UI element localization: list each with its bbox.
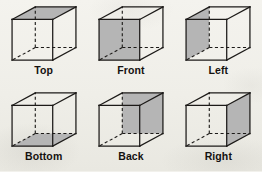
cube-view-front: Front (87, 0, 174, 86)
shaded-face-back (122, 92, 163, 133)
visible-edge-7 (12, 92, 35, 105)
cube-drawing-left (179, 4, 257, 64)
shaded-face-left (186, 7, 209, 60)
cube-label-back: Back (118, 151, 144, 162)
cube-label-bottom: Bottom (25, 151, 62, 162)
cube-drawing-top (5, 4, 83, 64)
visible-edge-9 (140, 48, 163, 61)
visible-edge-8 (52, 92, 75, 105)
visible-edge-9 (140, 133, 163, 146)
visible-edge-8 (140, 7, 163, 20)
visible-edge-8 (227, 7, 250, 20)
visible-edge-7 (99, 7, 122, 20)
shaded-face-right (227, 92, 250, 145)
cube-label-right: Right (205, 151, 232, 162)
cube-drawing-front (92, 4, 170, 64)
cube-label-top: Top (34, 65, 53, 76)
cube-label-left: Left (209, 65, 229, 76)
visible-edge-7 (186, 92, 209, 105)
cube-view-back: Back (87, 86, 174, 172)
cube-view-right: Right (175, 86, 262, 172)
hidden-edge-2 (12, 48, 35, 61)
visible-edge-9 (52, 48, 75, 61)
cube-view-left: Left (175, 0, 262, 86)
cube-view-bottom: Bottom (0, 86, 87, 172)
cube-views-grid: TopFrontLeftBottomBackRight (0, 0, 262, 171)
shaded-face-bottom (12, 133, 76, 146)
shaded-face-front (99, 19, 140, 60)
visible-edge-9 (227, 48, 250, 61)
cube-drawing-bottom (5, 90, 83, 150)
hidden-edge-2 (186, 133, 209, 146)
cube-label-front: Front (117, 65, 144, 76)
visible-edge-7 (99, 92, 122, 105)
cube-view-top: Top (0, 0, 87, 86)
cube-drawing-back (92, 90, 170, 150)
shaded-face-top (12, 7, 76, 20)
hidden-edge-2 (99, 133, 122, 146)
cube-drawing-right (179, 90, 257, 150)
